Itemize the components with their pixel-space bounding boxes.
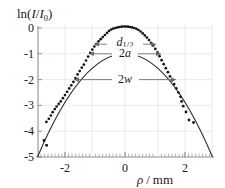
x-tick-label-m2: -2	[60, 161, 70, 175]
y-tick-label-m3: -3	[24, 98, 34, 112]
y-axis-title-prefix: ln(	[17, 6, 31, 21]
y-axis-title-suffix: )	[48, 6, 52, 21]
y-tick-label-m2: -2	[24, 73, 34, 87]
x-axis-title-symbol: ρ	[136, 172, 143, 187]
x-tick-label-2: 2	[182, 161, 188, 175]
x-axis-title-slash: /	[146, 172, 150, 187]
annotation-label-two-w: 2w	[118, 72, 132, 86]
y-axis-title: ln(I/I0)	[17, 6, 52, 23]
y-tick-labels: 0 -1 -2 -3 -4 -5	[24, 21, 34, 164]
annotation-label-two-a: 2a	[119, 46, 131, 60]
x-tick-label-0: 0	[122, 161, 128, 175]
y-tick-label-m4: -4	[24, 124, 34, 138]
figure-graph-intensity-profile: d1/2 2a 2w 0 -1 -2 -3 -4 -5	[0, 0, 225, 188]
annotation-symbol-w: w	[124, 72, 132, 86]
y-tick-label-0: 0	[28, 21, 34, 35]
y-tick-label-m5: -5	[24, 150, 34, 164]
x-axis-title: ρ/mm	[136, 172, 173, 187]
plot-canvas: d1/2 2a 2w 0 -1 -2 -3 -4 -5	[0, 0, 225, 188]
annotation-symbol-a: a	[125, 46, 131, 60]
y-tick-label-m1: -1	[24, 47, 34, 61]
x-axis-title-unit: mm	[153, 172, 173, 187]
